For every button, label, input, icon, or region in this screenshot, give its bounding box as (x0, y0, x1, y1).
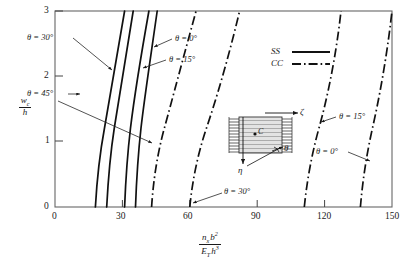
x-axis-label: nxb2 ETh3 (178, 231, 242, 258)
y-tick-2: 2 (44, 70, 49, 80)
x-tick-120: 120 (317, 211, 331, 221)
annotation-ss-theta-30: θ = 30° (27, 32, 53, 42)
plot-frame (55, 11, 392, 207)
inset-eta-label: η (238, 165, 242, 175)
y-tick-1: 1 (45, 135, 50, 145)
legend-label-ss: SS (271, 46, 280, 56)
y-axis-label-subscript: c (27, 101, 30, 107)
inset-theta-label: θ (284, 143, 288, 153)
chart-canvas (0, 0, 407, 270)
legend-label-cc: CC (271, 58, 283, 68)
x-axis-label-b-sup: 2 (215, 231, 218, 237)
x-tick-60: 60 (183, 211, 193, 221)
annotation-ss-theta-0: θ = 0° (175, 33, 197, 43)
annotation-cc-theta-30: θ = 30° (224, 186, 250, 196)
y-tick-3: 3 (44, 5, 49, 15)
inset-zeta-label: ζ (300, 107, 304, 117)
inset-center-label: C (258, 127, 263, 136)
annotation-ss-theta-15: θ = 15° (169, 54, 195, 64)
x-tick-90: 90 (251, 211, 261, 221)
annotation-cc-theta-15: θ = 15° (339, 111, 365, 121)
x-axis-label-E-sub: T (207, 252, 210, 258)
x-tick-30: 30 (116, 211, 126, 221)
x-axis-label-n-sub: x (207, 238, 210, 244)
x-tick-150: 150 (385, 211, 399, 221)
y-axis-label-denominator: h (19, 108, 32, 117)
y-tick-0: 0 (44, 201, 49, 211)
annotation-ss-theta-45: θ = 45° (27, 88, 53, 98)
x-tick-0: 0 (52, 211, 57, 221)
inset-center-dot (253, 132, 256, 135)
annotation-cc-theta-0: θ = 0° (316, 146, 338, 156)
figure-root: 0 30 60 90 120 150 3 2 1 0 wc h nxb2 ETh… (0, 0, 407, 270)
y-axis-label: wc h (11, 96, 39, 118)
x-axis-label-h-sup: 3 (216, 245, 219, 251)
